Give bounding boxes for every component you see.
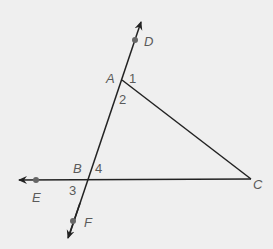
label-b: B bbox=[73, 162, 82, 175]
label-d: D bbox=[144, 35, 153, 48]
diagram-canvas bbox=[0, 0, 273, 249]
point-d bbox=[132, 37, 138, 43]
label-e: E bbox=[32, 191, 41, 204]
angle-label-1: 1 bbox=[129, 72, 136, 85]
point-f bbox=[70, 218, 76, 224]
angle-label-4: 4 bbox=[95, 162, 102, 175]
line-ec bbox=[19, 179, 251, 180]
label-c: C bbox=[253, 178, 262, 191]
label-f: F bbox=[84, 216, 92, 229]
angle-label-3: 3 bbox=[69, 184, 76, 197]
angle-label-2: 2 bbox=[119, 93, 126, 106]
point-e bbox=[33, 177, 39, 183]
geometry-diagram: D A 1 2 B 4 3 E F C bbox=[0, 0, 273, 249]
segment-ac bbox=[122, 80, 251, 179]
label-a: A bbox=[106, 72, 115, 85]
